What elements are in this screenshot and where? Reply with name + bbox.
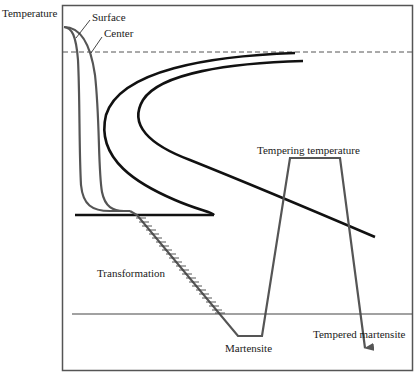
quench-and-temper-path bbox=[130, 158, 365, 348]
tempered-martensite-label: Tempered martensite bbox=[313, 328, 406, 340]
center-label: Center bbox=[104, 27, 134, 39]
tempering-temperature-label: Tempering temperature bbox=[257, 144, 360, 156]
y-axis-label: Temperature bbox=[2, 7, 58, 19]
surface-cooling-curve bbox=[64, 27, 124, 211]
center-cooling-curve bbox=[64, 27, 130, 211]
surface-label: Surface bbox=[92, 11, 126, 23]
center-leader bbox=[91, 37, 102, 53]
transformation-label: Transformation bbox=[97, 267, 166, 279]
surface-leader bbox=[76, 20, 90, 38]
martensite-label: Martensite bbox=[225, 342, 272, 354]
diagram-canvas: Temperature bbox=[0, 0, 416, 374]
